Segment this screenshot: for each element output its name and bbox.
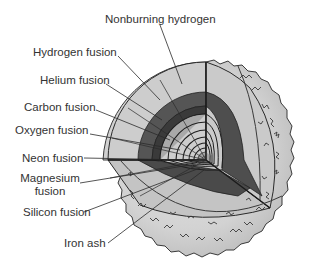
label-oxygen-fusion: Oxygen fusion — [15, 124, 89, 137]
label-magnesium-line2: fusion — [20, 185, 80, 198]
star-structure-diagram: Nonburning hydrogen Hydrogen fusion Heli… — [0, 0, 327, 279]
label-magnesium-fusion: Magnesium fusion — [20, 172, 80, 198]
label-helium-fusion: Helium fusion — [40, 74, 110, 87]
label-iron-ash: Iron ash — [64, 237, 106, 250]
label-nonburning-hydrogen: Nonburning hydrogen — [105, 13, 216, 26]
star-cutaway-illustration — [0, 0, 327, 279]
label-magnesium-line1: Magnesium — [20, 172, 80, 185]
label-silicon-fusion: Silicon fusion — [23, 206, 91, 219]
label-neon-fusion: Neon fusion — [22, 152, 83, 165]
label-carbon-fusion: Carbon fusion — [24, 101, 96, 114]
label-hydrogen-fusion: Hydrogen fusion — [33, 46, 117, 59]
